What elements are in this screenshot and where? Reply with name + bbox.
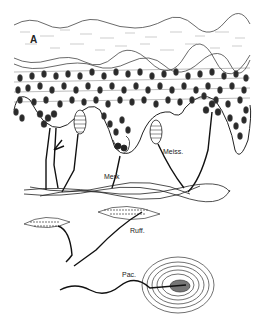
merkel-disc <box>113 136 130 153</box>
label-pacinian: Pac. <box>122 271 136 278</box>
ruffini-ending <box>24 206 160 266</box>
label-meissner: Meiss. <box>163 148 183 155</box>
label-merkel: Merk <box>104 173 120 180</box>
epidermal-cells <box>14 68 251 140</box>
skin-receptor-diagram <box>0 0 260 328</box>
nerve-plexus <box>24 182 230 201</box>
panel-label: A <box>30 35 37 45</box>
pacinian-corpuscle <box>60 257 214 313</box>
nerve-fibers <box>46 112 212 192</box>
label-ruffini: Ruff. <box>130 227 145 234</box>
stratum-corneum <box>14 13 250 73</box>
